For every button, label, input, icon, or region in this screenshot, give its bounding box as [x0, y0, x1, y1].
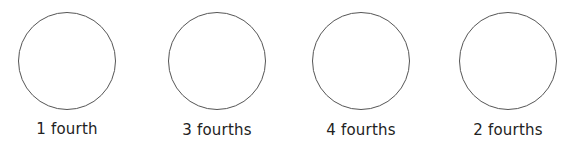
- label-2: 3 fourths: [157, 121, 277, 139]
- circle-1: [18, 12, 116, 110]
- circle-3: [312, 12, 410, 110]
- circle-4: [459, 12, 557, 110]
- label-3: 4 fourths: [301, 121, 421, 139]
- label-1: 1 fourth: [7, 120, 127, 138]
- circle-2: [168, 12, 266, 110]
- label-4: 2 fourths: [448, 121, 568, 139]
